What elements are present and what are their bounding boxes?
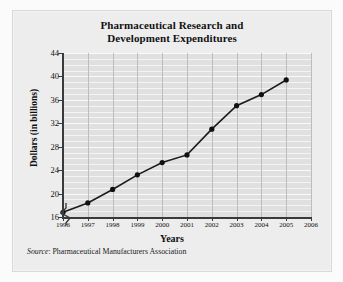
- data-point-marker: [284, 77, 289, 82]
- y-tick-label: 44: [19, 48, 59, 58]
- source-label: Source: [27, 247, 48, 256]
- data-point-marker: [234, 103, 239, 108]
- data-point-marker: [160, 160, 165, 165]
- y-tick-label: 20: [19, 189, 59, 199]
- x-tick: [261, 217, 262, 221]
- x-tick: [237, 217, 238, 221]
- y-tick-label: 40: [19, 71, 59, 81]
- source-text: Pharmaceutical Manufacturers Association: [53, 247, 187, 256]
- y-tick: [58, 53, 63, 54]
- x-tick: [162, 217, 163, 221]
- y-tick: [58, 100, 63, 101]
- x-tick: [137, 217, 138, 221]
- y-tick-label: 32: [19, 118, 59, 128]
- y-axis-title: Dollars (in billions): [29, 63, 39, 193]
- y-tick: [58, 147, 63, 148]
- x-tick: [311, 217, 312, 221]
- y-tick-label: 24: [19, 165, 59, 175]
- data-point-marker: [259, 92, 264, 97]
- y-tick: [58, 194, 63, 195]
- axis-break-icon: [59, 203, 73, 225]
- y-tick: [58, 123, 63, 124]
- data-point-marker: [184, 152, 189, 157]
- data-point-marker: [209, 127, 214, 132]
- series-polyline: [63, 80, 286, 212]
- chart-figure: Pharmaceutical Research and Development …: [0, 0, 343, 282]
- x-tick: [187, 217, 188, 221]
- chart-title: Pharmaceutical Research and Development …: [13, 19, 331, 45]
- series-line-expenditures: [63, 53, 311, 217]
- y-tick: [58, 76, 63, 77]
- plot-area: [63, 53, 311, 217]
- chart-card: Pharmaceutical Research and Development …: [12, 10, 332, 272]
- x-tick: [113, 217, 114, 221]
- y-tick-label: 36: [19, 95, 59, 105]
- x-tick: [88, 217, 89, 221]
- data-point-marker: [110, 187, 115, 192]
- y-tick: [58, 170, 63, 171]
- x-tick-label: 2006: [291, 221, 331, 229]
- x-axis-title: Years: [13, 233, 331, 244]
- x-tick: [212, 217, 213, 221]
- data-point-marker: [85, 200, 90, 205]
- x-tick: [286, 217, 287, 221]
- y-tick-label: 28: [19, 142, 59, 152]
- chart-title-line-2: Development Expenditures: [13, 32, 331, 45]
- source-note: Source: Pharmaceutical Manufacturers Ass…: [27, 247, 327, 256]
- chart-title-line-1: Pharmaceutical Research and: [100, 19, 243, 31]
- data-point-marker: [135, 172, 140, 177]
